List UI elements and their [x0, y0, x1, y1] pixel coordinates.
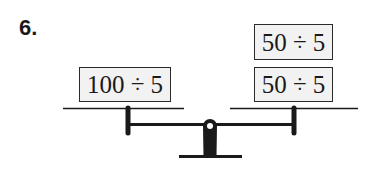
left-pan	[63, 108, 184, 133]
right-pan	[230, 108, 358, 133]
balance-scale-icon	[0, 0, 368, 171]
pivot-icon	[207, 123, 213, 129]
